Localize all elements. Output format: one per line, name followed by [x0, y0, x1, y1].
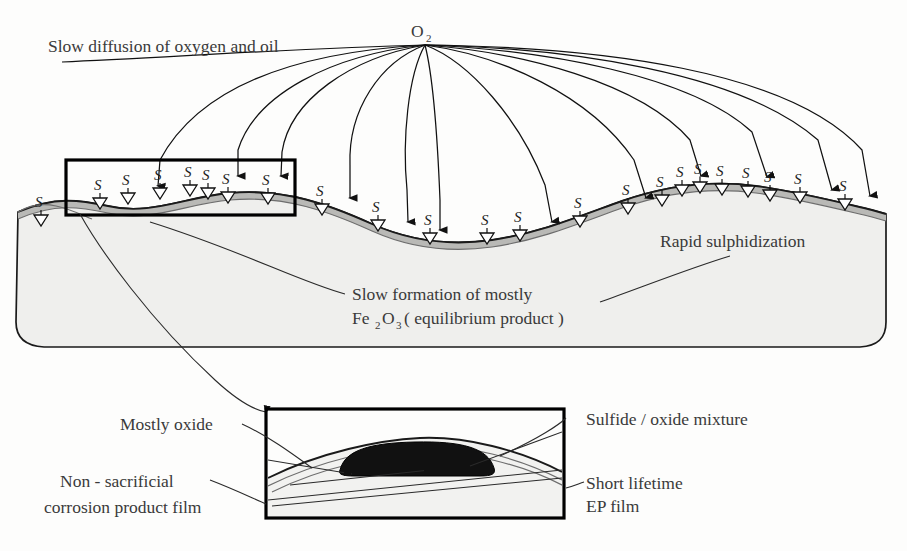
svg-text:S: S [202, 167, 210, 183]
svg-text:3: 3 [396, 319, 402, 331]
non-sacrificial-label-line2: corrosion product film [44, 497, 202, 517]
svg-text:( equilibrium product ): ( equilibrium product ) [404, 308, 564, 328]
sulfur-marker: S [121, 172, 135, 204]
svg-text:S: S [262, 172, 270, 188]
slow-diffusion-label: Slow diffusion of oxygen and oil [48, 36, 279, 56]
svg-text:S: S [514, 209, 522, 225]
svg-text:S: S [676, 164, 684, 180]
sulfur-marker: S [201, 167, 215, 199]
inset-detail [210, 409, 584, 518]
sulfur-marker: S [183, 164, 197, 196]
svg-text:S: S [222, 171, 230, 187]
svg-text:S: S [622, 182, 630, 198]
svg-text:Fe: Fe [352, 308, 370, 328]
non-sacrificial-label-line1: Non - sacrificial [60, 471, 174, 491]
svg-text:S: S [716, 163, 724, 179]
svg-text:S: S [154, 167, 162, 183]
mostly-oxide-label: Mostly oxide [120, 414, 213, 434]
fe2o3-formula: Fe 2 O 3 ( equilibrium product ) [352, 308, 564, 331]
svg-text:O: O [382, 308, 395, 328]
svg-text:S: S [794, 171, 802, 187]
svg-text:2: 2 [375, 319, 381, 331]
short-lifetime-label-line1: Short lifetime [586, 473, 683, 493]
rapid-sulphidization-label: Rapid sulphidization [660, 231, 806, 251]
svg-text:S: S [372, 199, 380, 215]
svg-text:S: S [184, 164, 192, 180]
svg-text:S: S [316, 183, 324, 199]
oxygen-subscript: 2 [426, 32, 432, 44]
ep-film-label-line2: EP film [586, 496, 640, 516]
svg-text:S: S [35, 194, 43, 210]
svg-text:S: S [481, 212, 489, 228]
svg-text:S: S [694, 161, 702, 177]
svg-text:S: S [574, 195, 582, 211]
oxygen-label: O [411, 21, 424, 41]
svg-text:S: S [94, 177, 102, 193]
oxygen-source-label: O 2 [411, 21, 432, 44]
sulfur-marker: S [153, 167, 167, 199]
svg-text:S: S [424, 212, 432, 228]
sulfide-oxide-label: Sulfide / oxide mixture [586, 409, 748, 429]
svg-text:S: S [742, 165, 750, 181]
svg-text:S: S [656, 174, 664, 190]
figure-canvas: O 2 Slow diffusion of oxygen and oil S S… [0, 0, 907, 551]
svg-text:S: S [839, 178, 847, 194]
svg-text:S: S [122, 172, 130, 188]
slow-formation-label: Slow formation of mostly [352, 284, 533, 304]
svg-text:S: S [764, 169, 772, 185]
